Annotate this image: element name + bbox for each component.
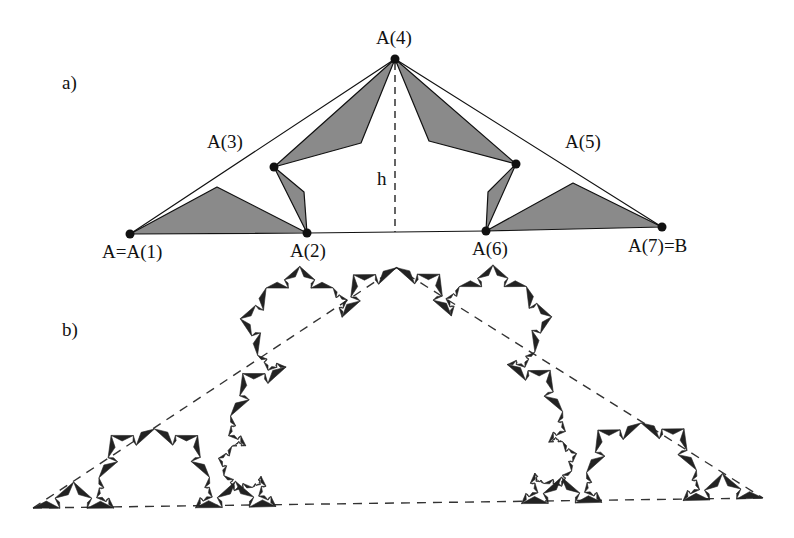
fractal-segment — [175, 435, 197, 441]
fractal-segment — [243, 373, 265, 379]
fractal-segment — [311, 282, 333, 288]
shaded-triangle — [130, 187, 307, 234]
panel-a: a) h A=A(1) A(2) A(3) A(4) A(5) A(6) A(7… — [62, 27, 687, 263]
fractal-segment — [224, 476, 233, 480]
fractal-segment — [173, 435, 176, 445]
fractal-segment — [541, 317, 552, 333]
fractal-segment — [553, 479, 554, 483]
fractal-segment — [191, 461, 209, 477]
shaded-triangle — [486, 183, 662, 231]
fractal-segment — [620, 430, 623, 440]
fractal-segment — [569, 461, 573, 471]
fractal-segment — [231, 416, 236, 426]
fractal-segment — [74, 482, 92, 498]
fractal-segment — [208, 487, 212, 497]
fractal-segment — [261, 476, 266, 486]
fractal-segment — [526, 352, 535, 356]
fractal-segment — [556, 431, 565, 435]
fractal-segment — [259, 480, 260, 484]
fractal-segment — [264, 362, 268, 370]
fractal-segment — [544, 396, 562, 411]
fractal-segment — [243, 483, 252, 488]
vertex-dot-A6 — [482, 227, 491, 236]
fractal-segment — [585, 492, 594, 496]
fractal-segment — [231, 426, 236, 427]
fractal-segment — [563, 442, 567, 452]
label-A5: A(5) — [565, 131, 601, 153]
fractal-segment — [692, 470, 697, 480]
fractal-segment — [339, 295, 347, 300]
fractal-segment — [99, 488, 104, 489]
fractal-segment — [504, 281, 526, 287]
fractal-segment — [562, 422, 566, 432]
fractal-segment — [558, 412, 563, 422]
label-A2: A(2) — [290, 240, 326, 262]
vertex-dot-A2 — [303, 229, 312, 238]
fractal-segment — [530, 483, 535, 484]
fractal-segment — [544, 479, 553, 483]
fractal-segment — [268, 496, 271, 500]
fractal-segment — [585, 483, 589, 493]
fractal-segment — [99, 478, 104, 488]
fractal-segment — [534, 483, 538, 493]
fractal-segment — [252, 484, 255, 488]
panel-b-label: b) — [62, 319, 78, 341]
fractal-segment — [266, 282, 288, 288]
fractal-segment — [203, 497, 212, 501]
fractal-segment — [562, 471, 571, 475]
fractal-segment — [598, 430, 620, 436]
fractal-segment — [397, 268, 415, 284]
fractal-segment — [259, 486, 263, 496]
fractal-segment — [528, 370, 550, 376]
fractal-segment — [265, 374, 268, 384]
fractal-segment — [526, 371, 529, 381]
fractal-segment — [737, 492, 763, 499]
fractal-segment — [375, 275, 378, 285]
fractal-segment — [662, 429, 684, 435]
fractal-segment — [530, 473, 535, 483]
fractal-segment — [415, 274, 418, 284]
fractal-segment — [55, 482, 74, 498]
vertex-dot-A4 — [391, 55, 400, 64]
fractal-segment — [231, 400, 250, 416]
fractal-segment — [594, 492, 597, 496]
fractal-segment — [133, 436, 136, 446]
fractal-segment — [532, 330, 539, 352]
fractal-segment — [536, 477, 537, 481]
fractal-segment — [240, 319, 251, 336]
fractal-segment — [659, 429, 662, 439]
fractal-segment — [456, 287, 460, 297]
fractal-segment — [537, 303, 552, 316]
fractal-segment — [236, 441, 239, 444]
fractal-segment — [516, 360, 517, 364]
fractal-segment — [276, 363, 277, 367]
fractal-segment — [544, 392, 553, 396]
vertex-dot-A5 — [512, 160, 521, 169]
fractal-segment — [240, 396, 249, 400]
fractal-segment — [587, 473, 592, 483]
fractal-segment — [446, 294, 454, 299]
fractal-segment — [99, 462, 118, 478]
fractal-segment — [261, 486, 266, 487]
dashed-sides — [33, 268, 763, 508]
base-line — [307, 231, 486, 233]
dashed-outline-triangle — [33, 268, 763, 508]
fractal-segment — [240, 373, 247, 395]
fractal-segment — [351, 297, 360, 301]
fractal-segment — [678, 450, 687, 454]
fractal-segment — [240, 305, 255, 318]
fractal-segment — [223, 466, 227, 476]
fractal-segment — [258, 476, 261, 480]
vertex-dot-A3 — [270, 163, 279, 172]
fractal-segment — [690, 490, 699, 494]
figure: a) h A=A(1) A(2) A(3) A(4) A(5) A(6) A(7… — [0, 0, 794, 538]
fractal-segment — [106, 498, 109, 502]
fractal-segment — [478, 265, 493, 278]
fractal-segment — [353, 275, 375, 281]
fractal-segment — [722, 474, 740, 489]
fractal-segment — [623, 423, 641, 440]
fractal-segment — [333, 288, 337, 298]
fractal-segment — [417, 274, 439, 280]
fractal-segment — [536, 480, 540, 481]
shaded-triangle — [395, 59, 516, 164]
